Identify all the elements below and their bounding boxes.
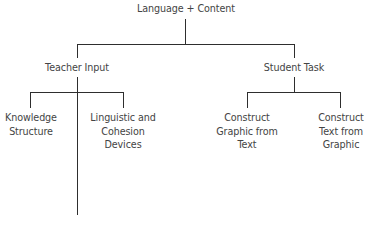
student-task-horizontal-connector xyxy=(247,92,341,93)
linguistic-devices-drop-connector xyxy=(123,92,124,108)
student-task-drop-connector xyxy=(294,44,295,58)
leaf-line: Devices xyxy=(90,138,155,152)
student-task-node: Student Task xyxy=(264,61,324,75)
construct-graphic-from-text-node: Construct Graphic from Text xyxy=(216,111,278,152)
leaf-line: Graphic xyxy=(318,138,364,152)
knowledge-structure-node: Knowledge Structure xyxy=(5,111,57,138)
student-task-label: Student Task xyxy=(264,61,324,75)
leaf-line: Construct xyxy=(216,111,278,125)
leaf-line: Text xyxy=(216,138,278,152)
leaf-line: Text from xyxy=(318,125,364,139)
teacher-input-horizontal-connector xyxy=(30,92,124,93)
knowledge-structure-drop-connector xyxy=(30,92,31,108)
leaf-line: Construct xyxy=(318,111,364,125)
construct-text-from-graphic-node: Construct Text from Graphic xyxy=(318,111,364,152)
leaf-line: Linguistic and xyxy=(90,111,155,125)
leaf-line: Graphic from xyxy=(216,125,278,139)
teacher-input-long-vertical-connector xyxy=(77,77,78,215)
linguistic-cohesion-devices-node: Linguistic and Cohesion Devices xyxy=(90,111,155,152)
teacher-input-node: Teacher Input xyxy=(45,61,109,75)
student-task-vertical-connector xyxy=(294,77,295,92)
leaf-line: Structure xyxy=(5,125,57,139)
root-horizontal-connector xyxy=(77,44,295,45)
construct-text-drop-connector xyxy=(340,92,341,108)
teacher-input-label: Teacher Input xyxy=(45,61,109,75)
leaf-line: Cohesion xyxy=(90,125,155,139)
root-label-text: Language + Content xyxy=(137,2,235,16)
root-node-label: Language + Content xyxy=(137,2,235,16)
root-vertical-connector xyxy=(185,19,186,44)
construct-graphic-drop-connector xyxy=(247,92,248,108)
leaf-line: Knowledge xyxy=(5,111,57,125)
teacher-input-drop-connector xyxy=(77,44,78,58)
